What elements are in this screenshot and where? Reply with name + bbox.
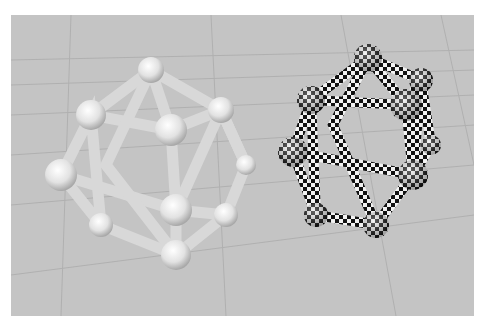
render-viewport <box>11 15 474 316</box>
scene-svg <box>11 15 474 316</box>
plain-icosahedron-vertices <box>45 57 256 270</box>
